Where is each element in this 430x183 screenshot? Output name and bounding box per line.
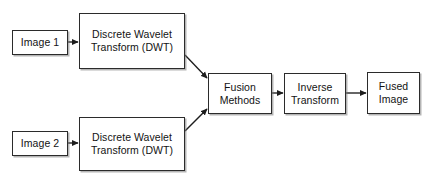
node-inverse-transform-line-1: Inverse	[298, 81, 333, 94]
node-image-1[interactable]: Image 1	[12, 30, 68, 55]
node-dwt-bottom-line-1: Discrete Wavelet	[92, 131, 172, 144]
node-dwt-top-line-1: Discrete Wavelet	[92, 28, 172, 41]
node-image-1-line-1: Image 1	[21, 36, 59, 49]
edge-dwt-bottom-to-fusion	[185, 109, 207, 131]
node-discrete-wavelet-transform-top[interactable]: Discrete Wavelet Transform (DWT)	[79, 13, 185, 69]
node-inverse-transform-line-2: Transform	[291, 94, 339, 107]
node-fusion-methods-line-2: Methods	[220, 94, 261, 107]
node-fused-image[interactable]: Fused Image	[367, 72, 420, 114]
node-fused-image-line-2: Image	[379, 93, 408, 106]
node-inverse-transform[interactable]: Inverse Transform	[284, 73, 346, 114]
node-image-2[interactable]: Image 2	[12, 131, 68, 156]
node-dwt-top-line-2: Transform (DWT)	[91, 41, 173, 54]
node-image-2-line-1: Image 2	[21, 137, 59, 150]
node-dwt-bottom-line-2: Transform (DWT)	[91, 144, 173, 157]
node-fusion-methods-line-1: Fusion	[224, 81, 256, 94]
node-discrete-wavelet-transform-bottom[interactable]: Discrete Wavelet Transform (DWT)	[79, 117, 185, 171]
dwt-fusion-diagram: Image 1 Discrete Wavelet Transform (DWT)…	[0, 0, 430, 183]
node-fusion-methods[interactable]: Fusion Methods	[208, 73, 272, 114]
edge-dwt-top-to-fusion	[185, 55, 207, 78]
node-fused-image-line-1: Fused	[379, 80, 408, 93]
